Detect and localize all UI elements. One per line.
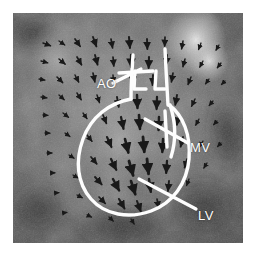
cardiac-scan-image: AO MV LV bbox=[13, 13, 243, 243]
velocity-arrow bbox=[139, 115, 140, 129]
velocity-arrow bbox=[162, 139, 163, 152]
velocity-arrow bbox=[147, 159, 149, 174]
aortic-root-left-wall bbox=[131, 55, 133, 99]
velocity-arrow bbox=[113, 57, 114, 66]
velocity-arrow bbox=[166, 161, 167, 173]
velocity-arrow bbox=[129, 37, 130, 48]
velocity-arrow bbox=[143, 137, 144, 152]
velocity-arrow bbox=[63, 212, 67, 213]
velocity-arrow bbox=[168, 181, 169, 191]
label-lv: LV bbox=[198, 209, 214, 222]
label-ao: AO bbox=[97, 77, 117, 90]
label-mv: MV bbox=[190, 141, 210, 154]
velocity-arrow bbox=[41, 97, 47, 98]
figure-container: AO MV LV bbox=[0, 0, 256, 259]
velocity-arrow bbox=[152, 75, 153, 85]
